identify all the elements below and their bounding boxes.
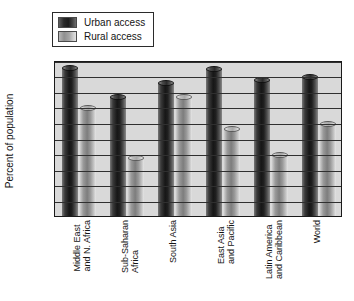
bar-body [110, 97, 126, 216]
plot-area-wrapper: 0102030405060708090100 [54, 61, 342, 217]
bar-cap [224, 126, 240, 132]
gridline [55, 77, 341, 78]
x-axis-label: East Asia and Pacific [216, 220, 236, 264]
y-tick-mark [54, 124, 55, 125]
legend-item-rural: Rural access [58, 31, 145, 42]
y-tick-mark [54, 108, 55, 109]
gridline [55, 62, 341, 63]
bar-body [158, 83, 174, 216]
gridline [55, 93, 341, 94]
bar-rural [272, 152, 288, 216]
bar-rural [80, 105, 96, 216]
bar-body [302, 77, 318, 216]
x-axis-label: South Asia [168, 220, 178, 263]
chart-root: Urban access Rural access Percent of pop… [0, 0, 354, 301]
x-axis-labels: Middle East and N. AfricaSub-Saharan Afr… [54, 220, 342, 300]
x-axis-label: Sub-Saharan Africa [120, 220, 140, 273]
x-axis-label: Middle East and N. Africa [72, 220, 92, 272]
y-tick-mark [54, 171, 55, 172]
plot-area: 0102030405060708090100 [54, 61, 342, 217]
legend-label-urban: Urban access [84, 17, 145, 28]
bar-body [176, 97, 192, 216]
bar-urban [206, 66, 222, 216]
y-tick-mark [54, 93, 55, 94]
gridline [55, 171, 341, 172]
gridline [55, 140, 341, 141]
bar-body [206, 69, 222, 216]
y-axis-title: Percent of population [4, 66, 18, 216]
bar-urban [254, 77, 270, 216]
bar-cap [62, 65, 78, 71]
bar-body [62, 68, 78, 216]
y-tick-mark [54, 186, 55, 187]
gridline [55, 202, 341, 203]
x-axis-label: World [312, 220, 322, 243]
gridline [55, 124, 341, 125]
y-tick-mark [54, 202, 55, 203]
gridline [55, 155, 341, 156]
legend-item-urban: Urban access [58, 17, 145, 28]
y-tick-mark [54, 155, 55, 156]
bar-body [254, 80, 270, 216]
y-tick-mark [54, 77, 55, 78]
legend-swatch-rural-icon [58, 31, 77, 42]
chart-legend: Urban access Rural access [52, 12, 154, 47]
gridline [55, 108, 341, 109]
gridline [55, 186, 341, 187]
bar-urban [158, 80, 174, 216]
bar-urban [302, 74, 318, 216]
legend-label-rural: Rural access [84, 31, 142, 42]
legend-swatch-urban-icon [58, 17, 77, 28]
y-tick-mark [54, 62, 55, 63]
y-tick-mark [54, 140, 55, 141]
x-axis-label: Latin America and Caribbean [264, 220, 284, 279]
